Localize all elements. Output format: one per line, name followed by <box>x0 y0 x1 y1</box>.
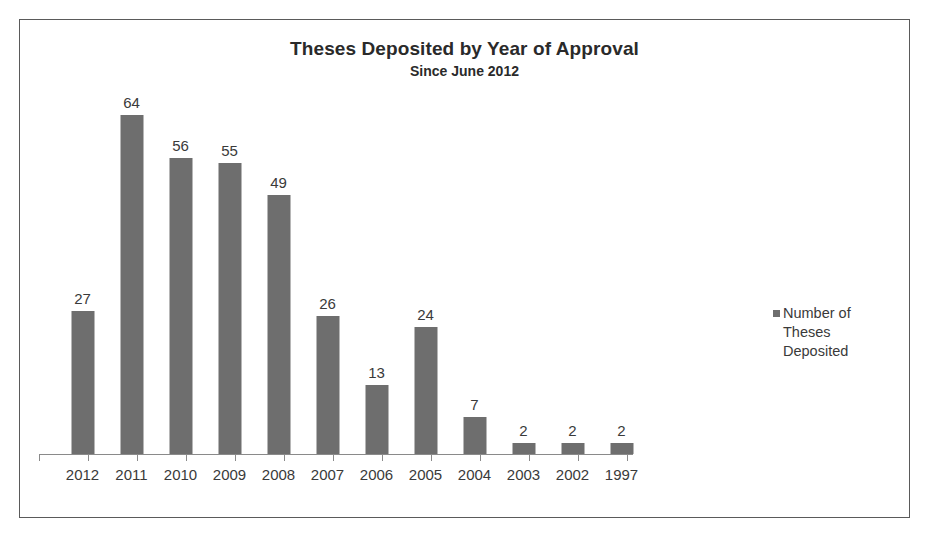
bar: 27 <box>71 311 94 454</box>
bar: 26 <box>316 316 339 454</box>
bar-column: 49 <box>267 195 290 454</box>
x-axis-tick-label: 2010 <box>156 466 205 483</box>
bar-column: 24 <box>414 327 437 454</box>
x-axis-tick-label: 2004 <box>450 466 499 483</box>
x-axis-tick-label: 1997 <box>597 466 646 483</box>
chart-title: Theses Deposited by Year of Approval <box>20 38 909 60</box>
bar: 2 <box>561 443 584 454</box>
x-axis-tick-label: 2011 <box>107 466 156 483</box>
bar-value-label: 64 <box>123 94 140 111</box>
bar-column: 64 <box>120 115 143 454</box>
x-axis-labels: 2012201120102009200820072006200520042003… <box>39 461 655 483</box>
bar-group: 24 <box>401 94 450 454</box>
bar-value-label: 7 <box>470 396 478 413</box>
x-axis-tick-label: 2003 <box>499 466 548 483</box>
bar-group: 56 <box>156 94 205 454</box>
legend-swatch-icon <box>773 310 780 317</box>
x-axis-tick-label: 2006 <box>352 466 401 483</box>
bar: 24 <box>414 327 437 454</box>
x-axis-tick-label: 2009 <box>205 466 254 483</box>
bar-group: 2 <box>548 94 597 454</box>
bar-value-label: 2 <box>617 422 625 439</box>
x-axis-tick-label: 2005 <box>401 466 450 483</box>
bar-group: 26 <box>303 94 352 454</box>
bar-value-label: 26 <box>319 295 336 312</box>
bar-group: 49 <box>254 94 303 454</box>
bar-column: 2 <box>561 443 584 454</box>
bar-column: 2 <box>610 443 633 454</box>
chart-legend: Number of Theses Deposited <box>773 304 893 361</box>
x-axis-tick-label: 2007 <box>303 466 352 483</box>
legend-item: Number of Theses Deposited <box>773 304 893 361</box>
x-axis-tick-label: 2012 <box>58 466 107 483</box>
bar-value-label: 13 <box>368 364 385 381</box>
plot-area: 27645655492613247222 2012201120102009200… <box>39 80 655 495</box>
bar-group: 2 <box>597 94 646 454</box>
bar-group: 64 <box>107 94 156 454</box>
bar-column: 55 <box>218 163 241 454</box>
bars-layer: 27645655492613247222 <box>39 94 655 454</box>
legend-item-label: Number of Theses Deposited <box>783 304 893 361</box>
x-axis-line <box>39 454 633 455</box>
bar: 64 <box>120 115 143 454</box>
bar: 13 <box>365 385 388 454</box>
bar-group: 7 <box>450 94 499 454</box>
bar: 2 <box>610 443 633 454</box>
bar-value-label: 27 <box>74 290 91 307</box>
bar-value-label: 2 <box>519 422 527 439</box>
bar-column: 2 <box>512 443 535 454</box>
x-axis-tick-label: 2002 <box>548 466 597 483</box>
bar-group: 27 <box>58 94 107 454</box>
chart-frame: Theses Deposited by Year of Approval Sin… <box>19 19 910 518</box>
bar-value-label: 49 <box>270 174 287 191</box>
bar-group: 55 <box>205 94 254 454</box>
bar-value-label: 24 <box>417 306 434 323</box>
bar-column: 56 <box>169 158 192 454</box>
bar-group: 2 <box>499 94 548 454</box>
bar-column: 27 <box>71 311 94 454</box>
bar: 55 <box>218 163 241 454</box>
bar: 7 <box>463 417 486 454</box>
bar: 49 <box>267 195 290 454</box>
bar: 2 <box>512 443 535 454</box>
x-axis-tick-label: 2008 <box>254 466 303 483</box>
bar-column: 7 <box>463 417 486 454</box>
bar-value-label: 56 <box>172 137 189 154</box>
bar-column: 26 <box>316 316 339 454</box>
bar-column: 13 <box>365 385 388 454</box>
bar-group: 13 <box>352 94 401 454</box>
bar-value-label: 2 <box>568 422 576 439</box>
bar-value-label: 55 <box>221 142 238 159</box>
chart-subtitle: Since June 2012 <box>20 63 909 79</box>
bar: 56 <box>169 158 192 454</box>
